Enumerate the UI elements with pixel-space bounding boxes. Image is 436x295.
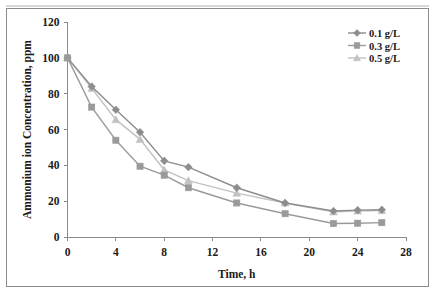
data-point-marker: [64, 55, 70, 61]
y-axis-tick-label: 20: [48, 195, 60, 207]
legend-marker-2: [354, 43, 360, 49]
y-axis-tick-label: 80: [48, 88, 60, 100]
x-axis-tick-label: 8: [161, 246, 167, 258]
x-axis-tick-label: 24: [352, 246, 364, 258]
data-point-marker: [185, 177, 193, 184]
y-axis-tick-label: 0: [54, 231, 60, 243]
data-point-marker: [282, 211, 288, 217]
y-axis-tick-label: 100: [42, 52, 60, 64]
x-axis-tick-label: 16: [255, 246, 267, 258]
data-point-marker: [330, 220, 336, 226]
plot-area-wrapper: 0204060801001200481216202428Time, hAmmon…: [0, 0, 436, 295]
figure-container: 0204060801001200481216202428Time, hAmmon…: [0, 0, 436, 295]
data-point-marker: [137, 163, 143, 169]
y-axis-tick-label: 40: [48, 159, 60, 171]
line-chart: 0204060801001200481216202428Time, hAmmon…: [0, 0, 436, 295]
series-line-0-5-g-l: [68, 58, 382, 212]
x-axis-tick-label: 4: [113, 246, 119, 258]
legend-label-1: 0.1 g/L: [369, 28, 400, 39]
series-line-0-1-g-l: [68, 58, 382, 211]
data-point-marker: [89, 104, 95, 110]
x-axis-title: Time, h: [218, 268, 256, 280]
data-point-marker: [185, 185, 191, 191]
data-point-marker: [355, 220, 361, 226]
x-axis-tick-label: 0: [65, 246, 71, 258]
legend-marker-1: [354, 30, 361, 37]
y-axis-tick-label: 120: [42, 16, 60, 28]
data-point-marker: [161, 172, 167, 178]
legend-label-3: 0.5 g/L: [369, 53, 400, 64]
data-point-marker: [113, 137, 119, 143]
data-point-marker: [379, 220, 385, 226]
x-axis-tick-label: 12: [207, 246, 219, 258]
data-point-marker: [233, 184, 241, 192]
x-axis-tick-label: 28: [400, 246, 412, 258]
y-axis-tick-label: 60: [48, 124, 60, 136]
y-axis-title: Ammonium ion Concentration, ppm: [21, 40, 34, 219]
data-point-marker: [234, 200, 240, 206]
data-point-marker: [185, 163, 193, 171]
x-axis-tick-label: 20: [304, 246, 316, 258]
legend-label-2: 0.3 g/L: [369, 41, 400, 52]
